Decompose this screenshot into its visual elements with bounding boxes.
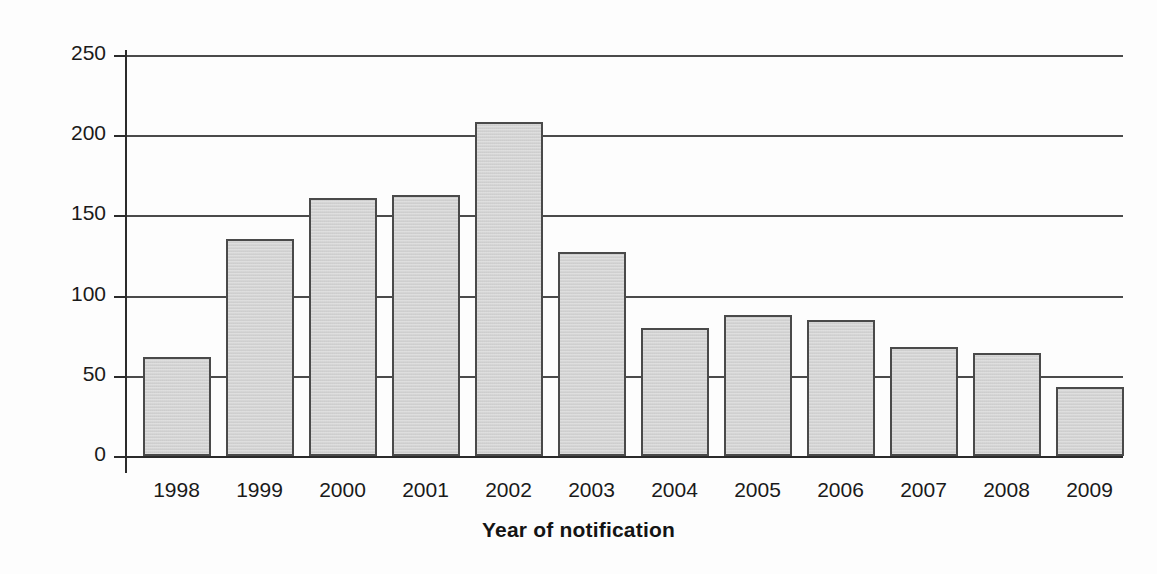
x-tick-label-2008: 2008 — [965, 478, 1048, 502]
bar-2003 — [558, 252, 626, 456]
x-tick-label-2006: 2006 — [799, 478, 882, 502]
x-tick-label-2004: 2004 — [633, 478, 716, 502]
y-tick-label-200: 200 — [20, 121, 106, 145]
y-tick-label-100: 100 — [20, 282, 106, 306]
y-tick-150 — [114, 215, 126, 217]
y-tick-50 — [114, 376, 126, 378]
bar-2005 — [724, 315, 792, 456]
x-tick-label-2007: 2007 — [882, 478, 965, 502]
x-tick-label-2002: 2002 — [467, 478, 550, 502]
bar-2004 — [641, 328, 709, 456]
bar-chart-figure: No. of notified cases 050100150200250 19… — [0, 0, 1157, 574]
y-tick-200 — [114, 135, 126, 137]
bar-2000 — [309, 198, 377, 456]
x-tick-label-2000: 2000 — [301, 478, 384, 502]
x-tick-label-2005: 2005 — [716, 478, 799, 502]
gridline-150 — [127, 215, 1123, 217]
bar-1998 — [143, 357, 211, 456]
bar-2006 — [807, 320, 875, 456]
bar-2009 — [1056, 387, 1124, 456]
gridline-250 — [127, 55, 1123, 57]
bar-2007 — [890, 347, 958, 456]
x-axis-title: Year of notification — [0, 518, 1157, 542]
bar-2001 — [392, 195, 460, 456]
gridline-0 — [127, 456, 1123, 458]
y-tick-label-250: 250 — [20, 41, 106, 65]
bar-2008 — [973, 353, 1041, 456]
bar-1999 — [226, 239, 294, 456]
y-tick-100 — [114, 296, 126, 298]
x-tick-label-2003: 2003 — [550, 478, 633, 502]
x-tick-label-1999: 1999 — [218, 478, 301, 502]
gridline-200 — [127, 135, 1123, 137]
plot-area — [127, 55, 1123, 456]
x-tick-label-2009: 2009 — [1048, 478, 1131, 502]
y-tick-label-150: 150 — [20, 201, 106, 225]
x-tick-label-2001: 2001 — [384, 478, 467, 502]
bar-2002 — [475, 122, 543, 456]
x-tick-label-1998: 1998 — [135, 478, 218, 502]
y-tick-label-0: 0 — [20, 442, 106, 466]
y-tick-250 — [114, 55, 126, 57]
y-tick-0 — [114, 456, 126, 458]
y-tick-label-50: 50 — [20, 362, 106, 386]
